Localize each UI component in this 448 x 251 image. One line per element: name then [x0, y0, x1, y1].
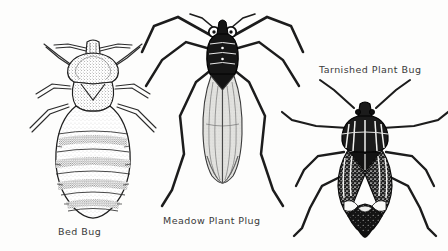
caption-bed-bug: Bed Bug — [58, 226, 101, 237]
insect-identification-plate: Bed Bug — [0, 0, 448, 251]
tarnished-plant-bug-illustration — [282, 74, 448, 240]
caption-meadow-plant-bug: Meadow Plant Plug — [163, 215, 261, 226]
figure-tarnished-plant-bug — [282, 74, 448, 240]
meadow-plant-bug-illustration — [140, 4, 305, 214]
figure-meadow-plant-bug — [140, 4, 305, 214]
bed-bug-pronotum — [68, 53, 119, 84]
bed-bug-wing-pads — [72, 82, 113, 111]
meadow-bug-pronotum — [207, 34, 238, 78]
caption-tarnished-plant-bug: Tarnished Plant Bug — [319, 64, 421, 75]
